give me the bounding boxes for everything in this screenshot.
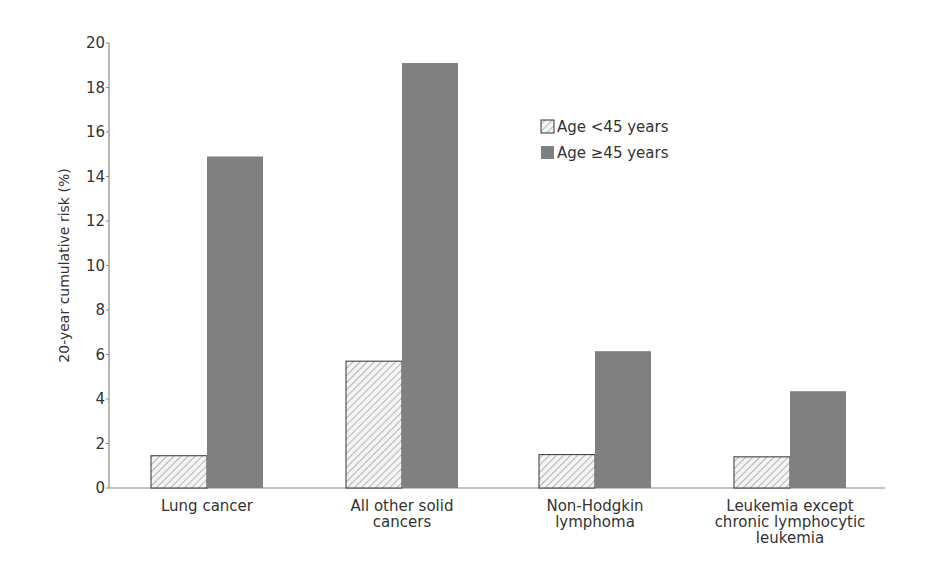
legend-label: Age <45 years: [557, 118, 669, 136]
y-tick-label: 18: [86, 79, 105, 97]
legend: Age <45 yearsAge ≥45 years: [541, 118, 669, 162]
category-label: cancers: [373, 513, 432, 531]
y-tick-label: 20: [86, 34, 105, 52]
bar-age-under-45: [346, 361, 402, 488]
axes: 0246810121416182020-year cumulative risk…: [56, 34, 885, 497]
category-labels: Lung cancerAll other solidcancersNon-Hod…: [161, 497, 865, 547]
bar-age-under-45: [734, 457, 790, 488]
legend-swatch-hatched: [541, 120, 554, 133]
bar-age-under-45: [539, 455, 595, 488]
bar-age-45-plus: [207, 156, 263, 488]
category-label: Lung cancer: [161, 497, 254, 515]
y-tick-label: 10: [86, 257, 105, 275]
y-tick-label: 4: [95, 390, 105, 408]
y-tick-label: 0: [95, 479, 105, 497]
legend-label: Age ≥45 years: [557, 144, 669, 162]
category-label: lymphoma: [555, 513, 635, 531]
y-tick-label: 14: [86, 168, 105, 186]
y-axis-title: 20-year cumulative risk (%): [56, 168, 72, 362]
bar-chart: 0246810121416182020-year cumulative risk…: [0, 0, 928, 584]
bar-age-under-45: [151, 456, 207, 488]
category-label: leukemia: [756, 529, 824, 547]
y-tick-label: 8: [95, 301, 105, 319]
y-tick-label: 12: [86, 212, 105, 230]
legend-swatch-solid: [541, 146, 554, 159]
bar-age-45-plus: [790, 391, 846, 488]
y-tick-label: 6: [95, 346, 105, 364]
y-tick-label: 16: [86, 123, 105, 141]
y-tick-label: 2: [95, 435, 105, 453]
bar-age-45-plus: [402, 63, 458, 488]
bars: [151, 63, 846, 488]
bar-age-45-plus: [595, 351, 651, 488]
